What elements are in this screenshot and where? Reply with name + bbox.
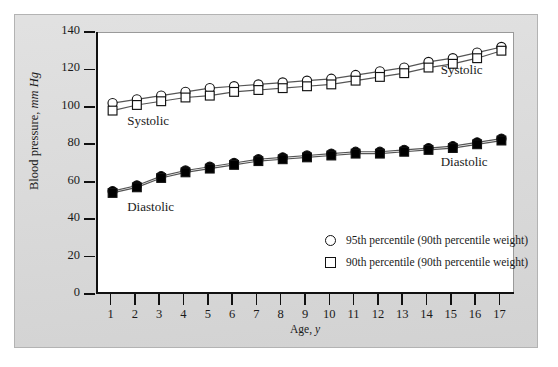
x-axis-tick-label: 17 [486, 307, 512, 322]
y-axis-tick [84, 256, 95, 258]
y-axis-tick [84, 31, 95, 33]
y-axis-tick-label: 120 [40, 60, 80, 75]
filled-square-marker-icon [351, 149, 360, 158]
filled-square-marker-icon [278, 155, 287, 164]
y-axis-tick-label: 20 [40, 248, 80, 263]
x-axis-tick [353, 294, 355, 305]
filled-square-marker-icon [303, 153, 312, 162]
annotation-diastolic-right: Diastolic [441, 154, 488, 170]
x-axis-tick [304, 294, 306, 305]
open-square-marker-icon [424, 63, 433, 72]
filled-square-marker-icon [473, 140, 482, 149]
x-axis-tick-label: 16 [462, 307, 488, 322]
open-square-marker-icon [205, 91, 214, 100]
legend-item-label: 95th percentile (90th percentile weight) [346, 234, 528, 246]
x-axis-tick [450, 294, 452, 305]
legend-item: 90th percentile (90th percentile weight) [324, 252, 528, 271]
chart-legend: 95th percentile (90th percentile weight)… [324, 230, 528, 274]
open-square-marker-icon [254, 86, 263, 95]
x-axis-tick-label: 12 [365, 307, 391, 322]
x-axis-tick [474, 294, 476, 305]
y-axis-tick-label: 100 [40, 98, 80, 113]
filled-square-marker-icon [400, 147, 409, 156]
x-axis-tick-label: 4 [170, 307, 196, 322]
x-axis-tick [183, 294, 185, 305]
x-axis-title-units: y [315, 323, 320, 335]
x-axis-tick [499, 294, 501, 305]
legend-item-label: 90th percentile (90th percentile weight) [346, 256, 528, 268]
open-circle-marker-icon [324, 233, 338, 247]
x-axis-tick [401, 294, 403, 305]
open-square-marker-icon [132, 101, 141, 110]
x-axis-tick [426, 294, 428, 305]
figure-container: Systolic Diastolic Systolic Diastolic 95… [0, 0, 558, 367]
open-square-marker-icon [303, 82, 312, 91]
y-axis-tick [84, 293, 95, 295]
filled-square-marker-icon [108, 189, 117, 198]
x-axis-title-main: Age, [290, 323, 315, 335]
x-axis-tick [256, 294, 258, 305]
annotation-diastolic-left: Diastolic [127, 199, 174, 215]
x-axis-tick [377, 294, 379, 305]
x-axis-tick [158, 294, 160, 305]
filled-square-marker-icon [132, 183, 141, 192]
open-square-marker-icon [351, 76, 360, 85]
x-axis-tick-label: 10 [316, 307, 342, 322]
filled-square-marker-icon [376, 149, 385, 158]
y-axis-tick-label: 0 [40, 285, 80, 300]
x-axis-tick [280, 294, 282, 305]
x-axis-tick-label: 9 [292, 307, 318, 322]
open-square-marker-icon [473, 54, 482, 63]
x-axis-tick-label: 5 [195, 307, 221, 322]
annotation-systolic-right: Systolic [441, 62, 483, 78]
y-axis-tick [84, 69, 95, 71]
open-square-marker-icon [400, 69, 409, 78]
open-square-marker-icon [324, 255, 338, 269]
filled-square-marker-icon [205, 164, 214, 173]
x-axis-tick-label: 14 [414, 307, 440, 322]
x-axis-title: Age, y [96, 323, 514, 335]
filled-square-marker-icon [424, 146, 433, 155]
x-axis-tick-label: 6 [219, 307, 245, 322]
open-square-marker-icon [278, 84, 287, 93]
x-axis-tick [231, 294, 233, 305]
y-axis-tick [84, 106, 95, 108]
y-axis-tick-label: 40 [40, 210, 80, 225]
x-axis-tick [110, 294, 112, 305]
x-axis-tick-label: 3 [146, 307, 172, 322]
open-square-marker-icon [327, 80, 336, 89]
x-axis-tick-label: 8 [268, 307, 294, 322]
legend-item: 95th percentile (90th percentile weight) [324, 230, 528, 249]
filled-square-marker-icon [254, 157, 263, 166]
y-axis-tick [84, 143, 95, 145]
x-axis-tick-label: 1 [98, 307, 124, 322]
filled-square-marker-icon [448, 144, 457, 153]
open-square-marker-icon [230, 87, 239, 96]
filled-square-marker-icon [157, 174, 166, 183]
x-axis-tick-label: 15 [438, 307, 464, 322]
open-square-marker-icon [108, 106, 117, 115]
filled-square-marker-icon [181, 168, 190, 177]
open-square-marker-icon [497, 46, 506, 55]
x-axis-tick [134, 294, 136, 305]
open-square-marker-icon [376, 73, 385, 82]
x-axis-tick-label: 2 [122, 307, 148, 322]
filled-square-marker-icon [230, 160, 239, 169]
y-axis-tick [84, 181, 95, 183]
y-axis-tick [84, 218, 95, 220]
y-axis-tick-label: 80 [40, 135, 80, 150]
filled-square-marker-icon [327, 151, 336, 160]
x-axis-tick-label: 13 [389, 307, 415, 322]
open-square-marker-icon [181, 93, 190, 102]
open-square-marker-icon [157, 97, 166, 106]
y-axis-title: Blood pressure, mm Hg [27, 21, 42, 241]
x-axis-tick-label: 7 [243, 307, 269, 322]
plot-area: Systolic Diastolic Systolic Diastolic 95… [96, 32, 514, 294]
y-axis-title-main: Blood pressure, [27, 108, 41, 190]
annotation-systolic-left: Systolic [127, 113, 169, 129]
y-axis-title-units: mm Hg [27, 72, 41, 108]
filled-square-marker-icon [497, 136, 506, 145]
x-axis-tick-label: 11 [341, 307, 367, 322]
x-axis-tick [207, 294, 209, 305]
y-axis-tick-label: 140 [40, 23, 80, 38]
